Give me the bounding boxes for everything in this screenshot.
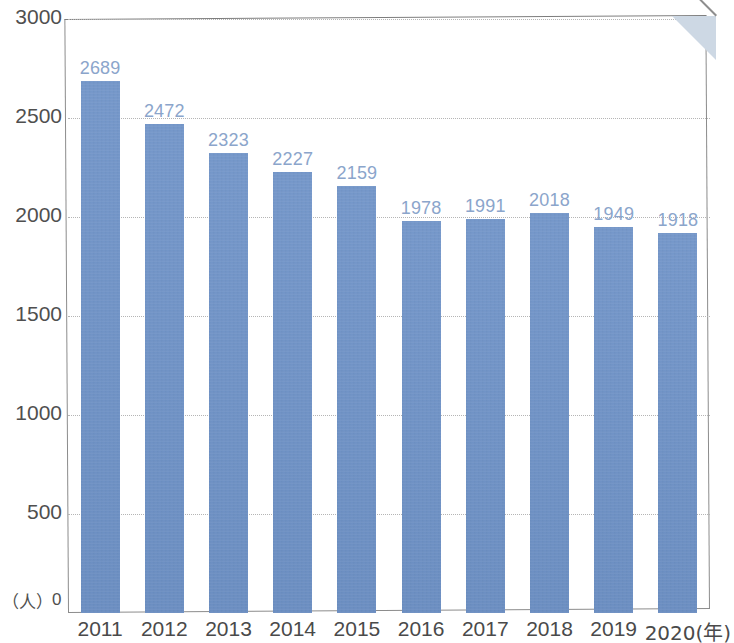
bar-value-label: 2159: [322, 163, 392, 184]
bar-value-label: 1991: [450, 196, 520, 217]
x-axis-tick-label: 2020(年): [638, 617, 734, 643]
bar-value-label: 2689: [65, 58, 135, 79]
bar-value-label: 1918: [643, 210, 713, 231]
bar-value-label: 2323: [194, 130, 264, 151]
bar-value-label: 2018: [515, 190, 585, 211]
bar-value-label: 2472: [129, 101, 199, 122]
bar-value-label: 1978: [386, 198, 456, 219]
bar-value-label: 2227: [258, 149, 328, 170]
x-axis-tick-labels: 2011201220132014201520162017201820192020…: [0, 617, 724, 643]
bar-value-label: 1949: [579, 204, 649, 225]
